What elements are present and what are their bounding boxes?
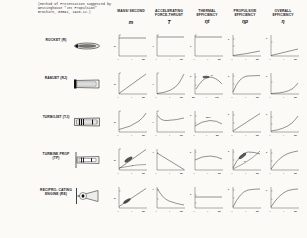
svg-text:0: 0	[232, 135, 233, 136]
svg-text:500: 500	[180, 173, 183, 174]
svg-text:500: 500	[180, 135, 183, 136]
svg-text:V: V	[169, 135, 171, 136]
svg-text:0: 0	[156, 173, 157, 174]
svg-text:m: m	[114, 45, 116, 47]
row-label-turbojet: TURBOJET (TJ)	[40, 115, 72, 119]
svg-text:V: V	[131, 97, 133, 98]
svg-text:V: V	[169, 97, 171, 98]
svg-text:T: T	[153, 83, 155, 85]
svg-text:0: 0	[118, 97, 119, 98]
svg-text:T: T	[153, 45, 155, 47]
svg-text:m: m	[114, 121, 116, 123]
svg-text:η: η	[228, 75, 230, 77]
svg-text:0: 0	[270, 135, 271, 136]
svg-text:500: 500	[142, 211, 145, 212]
svg-text:η: η	[190, 193, 192, 195]
plot-rocket-mass-second: m 0 V 500	[112, 32, 150, 62]
svg-text:η: η	[190, 75, 192, 77]
plot-turbojet-overall-efficiency: η 0 V 500	[264, 108, 302, 138]
plot-turbojet-thrust: T 0 V 500	[150, 108, 188, 138]
svg-text:V: V	[207, 211, 209, 212]
svg-text:0: 0	[156, 97, 157, 98]
svg-text:V: V	[283, 173, 285, 174]
svg-text:m: m	[114, 197, 116, 199]
svg-text:η: η	[266, 113, 268, 115]
svg-text:0: 0	[156, 211, 157, 212]
plot-turbojet-mass-second: m 0 V 500	[112, 108, 150, 138]
svg-text:0: 0	[270, 59, 271, 60]
svg-text:BEST T: BEST T	[206, 117, 211, 118]
svg-text:500: 500	[218, 211, 221, 212]
plot-turbine-prop-overall-efficiency: η 0 V 500	[264, 146, 302, 176]
column-symbol-mass-second: m	[112, 19, 150, 25]
svg-text:η: η	[228, 113, 230, 115]
svg-text:V: V	[283, 135, 285, 136]
row-label-ramjet: RAMJET (RJ)	[40, 76, 72, 80]
svg-text:m: m	[114, 83, 116, 85]
svg-text:V: V	[245, 173, 247, 174]
svg-text:T: T	[153, 151, 155, 153]
plot-turbojet-propulsive-efficiency: η 0 V 500	[226, 108, 264, 138]
row-label-turbine-prop: TURBINE PROP (TP)	[40, 152, 72, 160]
svg-text:T: T	[153, 121, 155, 123]
svg-text:RJ: RJ	[211, 75, 213, 76]
plot-ramjet-thermal-efficiency: η RJ 800 V 1400	[188, 70, 226, 100]
svg-text:V: V	[245, 59, 247, 60]
plot-rocket-thrust: T 0 V 500	[150, 32, 188, 62]
svg-text:0: 0	[232, 211, 233, 212]
svg-text:V: V	[131, 135, 133, 136]
svg-text:η: η	[266, 75, 268, 77]
plot-turbine-prop-propulsive-efficiency: η TP 0 V 500	[226, 146, 264, 176]
svg-text:V: V	[207, 173, 209, 174]
svg-text:η: η	[190, 45, 192, 47]
svg-text:500: 500	[142, 135, 145, 136]
svg-text:V: V	[131, 173, 133, 174]
svg-text:0: 0	[118, 173, 119, 174]
svg-text:V: V	[169, 59, 171, 60]
svg-text:η: η	[266, 151, 268, 153]
plot-rocket-thermal-efficiency: η 0 V 500	[188, 32, 226, 62]
plot-rocket-overall-efficiency: η 0 V 500	[264, 32, 302, 62]
svg-text:500: 500	[142, 173, 145, 174]
svg-text:0: 0	[118, 135, 119, 136]
svg-text:T: T	[153, 188, 155, 190]
svg-text:η: η	[190, 151, 192, 153]
plot-reciprocating-engine-overall-efficiency: η 0 V 500	[264, 184, 302, 214]
svg-text:500: 500	[180, 59, 183, 60]
svg-text:500: 500	[256, 59, 259, 60]
column-header-thermal-efficiency: THERMAL EFFICIENCY	[188, 9, 226, 17]
svg-text:500: 500	[142, 59, 145, 60]
svg-text:0: 0	[194, 211, 195, 212]
svg-text:V: V	[207, 59, 209, 60]
chart-sheet: (Method of Presentation suggested by Wes…	[0, 0, 307, 238]
svg-text:R: R	[132, 165, 133, 166]
svg-text:TP: TP	[244, 161, 246, 162]
svg-text:500: 500	[256, 135, 259, 136]
engine-icon-ramjet	[72, 74, 102, 94]
svg-text:η: η	[266, 37, 268, 39]
plot-turbine-prop-thermal-efficiency: η 0 V 500	[188, 146, 226, 176]
svg-text:0: 0	[270, 97, 271, 98]
svg-text:η: η	[228, 188, 230, 190]
svg-text:V: V	[169, 211, 171, 212]
svg-text:η: η	[228, 150, 230, 152]
svg-text:V: V	[169, 173, 171, 174]
svg-text:800: 800	[192, 97, 195, 98]
svg-text:500: 500	[294, 59, 297, 60]
svg-text:500: 500	[294, 211, 297, 212]
plot-ramjet-mass-second: m 0 V 500	[112, 70, 150, 100]
plot-turbojet-thermal-efficiency: η BEST T 0 V 800	[188, 108, 226, 138]
svg-text:η: η	[190, 114, 192, 116]
svg-text:V: V	[283, 97, 285, 98]
svg-text:0: 0	[232, 173, 233, 174]
plot-turbine-prop-thrust: T 0 V 500	[150, 146, 188, 176]
svg-text:m: m	[114, 159, 116, 161]
svg-text:500: 500	[256, 97, 259, 98]
svg-text:0: 0	[156, 59, 157, 60]
svg-text:V: V	[245, 211, 247, 212]
svg-text:0: 0	[118, 211, 119, 212]
source-caption: (Method of Presentation suggested by Wes…	[38, 2, 116, 14]
svg-text:800: 800	[216, 135, 219, 136]
svg-text:0: 0	[156, 135, 157, 136]
svg-text:500: 500	[294, 97, 297, 98]
